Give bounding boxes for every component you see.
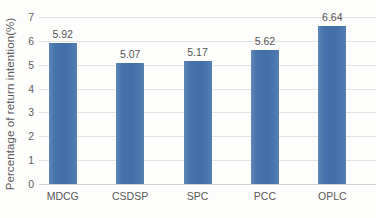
bar[interactable] <box>318 26 346 184</box>
y-axis-title-text: Percentage of return intention(%) <box>4 17 16 190</box>
bars-layer: 5.925.075.175.626.64 <box>39 17 376 184</box>
bar-group[interactable]: 5.17 <box>184 17 212 184</box>
x-tick-label: PCC <box>254 190 276 202</box>
y-axis-tick-labels: 01234567 <box>20 11 36 190</box>
bar-group[interactable]: 6.64 <box>318 17 346 184</box>
bar-fill <box>319 26 346 184</box>
y-tick-label: 2 <box>28 130 34 142</box>
bar[interactable] <box>49 43 77 184</box>
x-tick-label: MDCG <box>47 190 79 202</box>
y-tick-label: 4 <box>28 83 34 95</box>
bar[interactable] <box>251 50 279 184</box>
y-axis-title: Percentage of return intention(%) <box>0 0 20 207</box>
bar-value-label: 5.17 <box>187 46 207 58</box>
bar-group[interactable]: 5.07 <box>116 17 144 184</box>
y-tick-label: 1 <box>28 154 34 166</box>
bar-fill <box>117 63 144 184</box>
bar-value-label: 5.07 <box>120 48 140 60</box>
bar[interactable] <box>116 63 144 184</box>
bar-group[interactable]: 5.62 <box>251 17 279 184</box>
bar-value-label: 5.92 <box>52 28 72 40</box>
x-axis-tick-labels: MDCGCSDSPSPCPCCOPLC <box>39 190 376 210</box>
bar-value-label: 6.64 <box>322 11 342 23</box>
y-tick-label: 3 <box>28 106 34 118</box>
bar-chart: Percentage of return intention(%) 012345… <box>0 0 376 218</box>
y-tick-label: 6 <box>28 35 34 47</box>
bar-value-label: 5.62 <box>255 35 275 47</box>
x-tick-label: SPC <box>187 190 209 202</box>
gridline <box>39 184 376 185</box>
bar-group[interactable]: 5.92 <box>49 17 77 184</box>
bar-fill <box>50 43 77 184</box>
x-tick-label: OPLC <box>318 190 347 202</box>
y-tick-label: 0 <box>28 178 34 190</box>
bar[interactable] <box>184 61 212 184</box>
bar-fill <box>185 61 212 184</box>
y-tick-label: 5 <box>28 59 34 71</box>
x-tick-label: CSDSP <box>112 190 148 202</box>
bar-fill <box>252 50 279 184</box>
y-tick-label: 7 <box>28 11 34 23</box>
